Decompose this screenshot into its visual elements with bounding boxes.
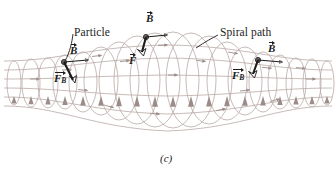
coil-arrow [277, 96, 282, 105]
coil-arrow [98, 96, 104, 106]
field-arrow [120, 61, 129, 62]
spiral-path-leader-line [196, 35, 218, 48]
vector-subscript: B [239, 73, 244, 82]
coil-arrow [206, 96, 212, 107]
vector-overarrow-icon [232, 67, 244, 71]
vector-overarrow-icon [70, 42, 77, 46]
figure-container: Particle Spiral path B FB B F FB B (c) [0, 0, 336, 181]
field-line [4, 45, 332, 61]
coil-arrow [170, 96, 176, 107]
vector-overarrow-icon [54, 70, 66, 74]
vector-label-FB-right: FB [232, 67, 244, 82]
spiral-path-label: Spiral path [220, 26, 271, 38]
coil-arrow [28, 96, 33, 104]
field-arrow [240, 90, 249, 91]
particle-label: Particle [74, 26, 110, 38]
vector-label-B-left: B [70, 42, 77, 56]
vector-overarrow-icon [146, 10, 153, 14]
vector-label-B-top: B [146, 10, 153, 24]
vector-label-FB-left: FB [54, 70, 66, 85]
B-vector-arrow-right [258, 60, 282, 62]
coil-arrow [134, 96, 140, 107]
vector-overarrow-icon [129, 52, 136, 56]
spiral-loop [186, 36, 232, 124]
vector-label-B-right: B [268, 40, 275, 54]
vector-overarrow-icon [268, 40, 275, 44]
B-vector-arrow-left [64, 60, 88, 62]
coil-arrow [242, 96, 248, 106]
vector-label-F-top: F [129, 52, 136, 66]
field-arrow [78, 90, 87, 91]
coil-arrow [80, 96, 86, 105]
coil-arrow [260, 96, 266, 105]
leader-lines-group [65, 34, 218, 61]
figure-caption: (c) [160, 152, 172, 164]
vector-subscript: B [61, 76, 66, 85]
field-arrow [92, 55, 101, 56]
coil-arrow [62, 96, 67, 105]
coil-arrow [293, 96, 298, 105]
spiral-loop [130, 33, 180, 127]
